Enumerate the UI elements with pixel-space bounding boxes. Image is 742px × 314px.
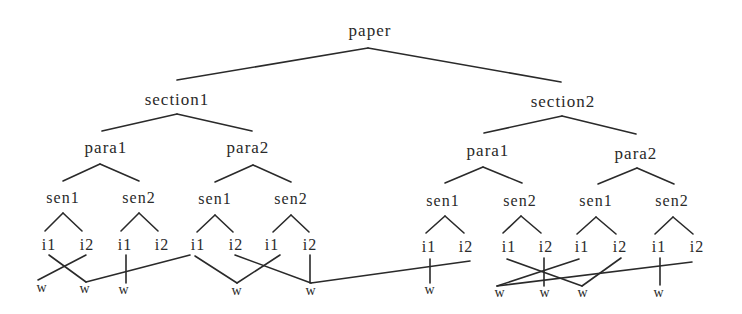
- tree-edge: [177, 48, 368, 80]
- tree-edge: [368, 48, 561, 82]
- tree-edge: [291, 215, 309, 232]
- tree-node-w6: w: [424, 283, 435, 297]
- tree-edge: [139, 213, 158, 231]
- tree-edge: [253, 165, 291, 182]
- tree-edge: [177, 114, 252, 131]
- tree-edge: [497, 259, 579, 286]
- tree-node-c1i2: i2: [459, 239, 473, 255]
- tree-edge: [655, 217, 673, 234]
- tree-node-c2: sen2: [503, 193, 536, 209]
- tree-node-w7: w: [494, 286, 505, 300]
- tree-edge: [637, 168, 674, 184]
- tree-node-a2i2: i2: [155, 237, 169, 253]
- tree-node-a2i1: i1: [118, 237, 132, 253]
- tree-node-b1: sen1: [198, 191, 231, 207]
- tree-edge: [49, 255, 86, 282]
- tree-node-b1i1: i1: [191, 237, 205, 253]
- tree-node-b2i2: i2: [303, 237, 317, 253]
- tree-node-paper: paper: [349, 22, 392, 39]
- tree-edge: [503, 216, 521, 233]
- tree-edge: [445, 216, 464, 233]
- tree-node-a1i2: i2: [80, 237, 94, 253]
- tree-node-w5: w: [305, 284, 316, 298]
- tree-edge: [426, 216, 445, 233]
- tree-node-s1: section1: [145, 91, 210, 108]
- tree-node-c1: sen1: [426, 193, 459, 209]
- tree-edge: [562, 116, 636, 134]
- tree-node-w1: w: [36, 281, 47, 295]
- tree-edge: [484, 116, 562, 133]
- tree-node-b1i2: i2: [229, 237, 243, 253]
- tree-node-a1: sen1: [46, 190, 79, 206]
- tree-edge: [121, 213, 139, 231]
- tree-edge: [195, 256, 237, 283]
- tree-edge: [197, 215, 215, 232]
- tree-edge: [100, 164, 139, 181]
- tree-node-c2i2: i2: [539, 239, 553, 255]
- tree-edge: [596, 217, 616, 234]
- tree-node-c2i1: i1: [502, 239, 516, 255]
- tree-node-d1i1: i1: [575, 239, 589, 255]
- tree-node-b2: sen2: [274, 191, 307, 207]
- tree-node-w2: w: [79, 282, 90, 296]
- tree-edge: [577, 217, 596, 234]
- tree-node-b2i1: i1: [265, 237, 279, 253]
- tree-node-a2: sen2: [122, 190, 155, 206]
- tree-node-s2p1: para1: [467, 142, 510, 159]
- tree-node-d2i2: i2: [690, 239, 704, 255]
- tree-node-s1p1: para1: [85, 139, 128, 156]
- tree-edge: [598, 168, 637, 184]
- tree-edge: [215, 165, 253, 182]
- tree-node-d1i2: i2: [613, 239, 627, 255]
- tree-edge: [273, 215, 291, 232]
- tree-edge: [215, 215, 233, 232]
- tree-edge: [445, 167, 483, 183]
- tree-edge: [63, 164, 100, 181]
- tree-node-s2p2: para2: [615, 145, 658, 162]
- tree-edge: [86, 255, 190, 282]
- tree-diagram: papersection1section2para1para2para1para…: [0, 0, 742, 314]
- tree-edge: [45, 213, 63, 231]
- tree-node-s2: section2: [531, 93, 596, 110]
- tree-edge: [311, 261, 470, 283]
- tree-node-w9: w: [577, 286, 588, 300]
- tree-edge: [483, 167, 522, 183]
- tree-edge: [673, 217, 693, 234]
- tree-node-d1: sen1: [579, 193, 612, 209]
- tree-edge: [102, 114, 177, 131]
- tree-node-a1i1: i1: [42, 237, 56, 253]
- tree-node-d2: sen2: [655, 193, 688, 209]
- tree-node-w8: w: [539, 286, 550, 300]
- tree-edge: [521, 216, 541, 233]
- tree-node-w10: w: [653, 286, 664, 300]
- tree-node-w3: w: [118, 283, 129, 297]
- tree-node-d2i1: i1: [652, 239, 666, 255]
- tree-node-w4: w: [231, 284, 242, 298]
- tree-node-s1p2: para2: [227, 139, 270, 156]
- tree-node-c1i1: i1: [422, 239, 436, 255]
- tree-edge: [63, 213, 82, 231]
